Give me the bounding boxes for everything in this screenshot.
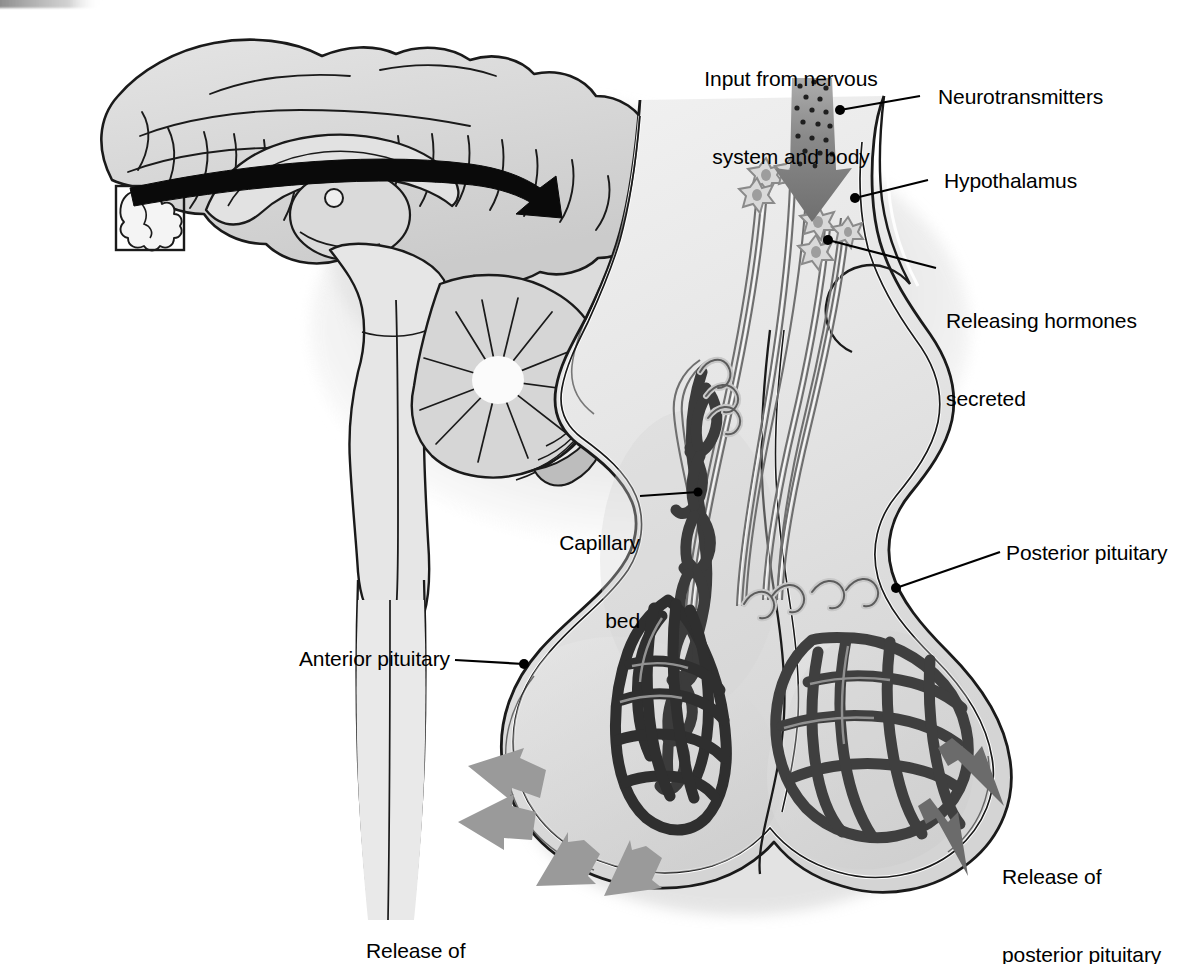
label-posterior-pituitary: Posterior pituitary (1006, 540, 1168, 566)
corner-tab (0, 0, 102, 8)
pituitary-diagram-figure: Input from nervous system and body Neuro… (0, 0, 1184, 964)
label-hypothalamus: Hypothalamus (944, 168, 1077, 194)
label-release-posterior: Release of posterior pituitary hormones … (1002, 812, 1167, 964)
label-input-from-nervous-system: Input from nervous system and body (646, 14, 936, 222)
label-release-anterior-line1: Release of (366, 938, 515, 964)
label-release-posterior-line2: posterior pituitary (1002, 942, 1167, 964)
label-release-anterior: Release of anterior pituitary hormones (366, 886, 515, 964)
label-releasing-hormones-line1: Releasing hormones (946, 308, 1137, 334)
label-release-posterior-line1: Release of (1002, 864, 1167, 890)
label-capillary-bed-line2: bed (448, 608, 640, 634)
label-input-line2: system and body (646, 144, 936, 170)
label-releasing-hormones-line2: secreted (946, 386, 1137, 412)
label-input-line1: Input from nervous (646, 66, 936, 92)
label-capillary-bed: Capillary bed (448, 478, 640, 686)
label-releasing-hormones: Releasing hormones secreted (946, 256, 1137, 464)
label-neurotransmitters: Neurotransmitters (938, 84, 1103, 110)
label-anterior-pituitary: Anterior pituitary (250, 646, 450, 672)
label-capillary-bed-line1: Capillary (448, 530, 640, 556)
